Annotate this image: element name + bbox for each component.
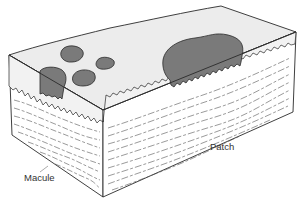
label-macule: Macule	[24, 172, 55, 183]
label-patch: Patch	[210, 141, 234, 152]
skin-block-diagram: Macule Patch	[0, 0, 302, 211]
macule-3	[72, 70, 95, 86]
macule-1	[61, 46, 84, 62]
macule-4-cut	[40, 67, 66, 99]
macule-2	[96, 57, 114, 69]
